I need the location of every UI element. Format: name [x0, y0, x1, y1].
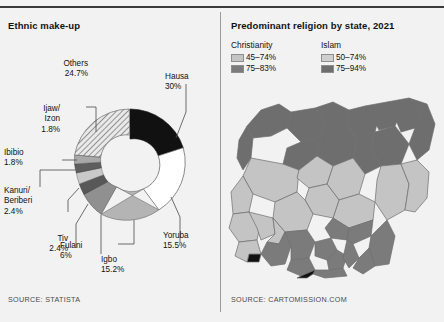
donut-chart: Others 24.7% Ijaw/ Izon 1.8% Ibibio 1.8%…: [0, 12, 220, 312]
donut-segments: [74, 109, 185, 220]
label-ijaw-izon: Ijaw/ Izon 1.8%: [2, 104, 60, 135]
legend-islam: Islam 50–74% 75–94%: [321, 40, 366, 75]
label-igbo: Igbo 15.2%: [101, 255, 151, 276]
swatch-icon-christianity-high: [231, 65, 244, 73]
label-ibibio: Ibibio 1.8%: [4, 148, 64, 169]
source-right: SOURCE: CARTOMISSION.COM: [231, 295, 347, 304]
label-yoruba: Yoruba 15.5%: [163, 231, 219, 252]
top-rule: [0, 6, 444, 8]
legend-heading-islam: Islam: [321, 40, 366, 50]
legend-item-christianity-low: 45–74%: [231, 53, 276, 62]
legend-label-christianity-high: 75–83%: [246, 64, 276, 73]
label-tiv: Tiv 2.4%: [8, 234, 68, 255]
segment-others: [75, 109, 130, 157]
state-sokoto: [247, 104, 291, 138]
label-hausa: Hausa 30%: [165, 72, 217, 93]
legend-christianity: Christianity 45–74% 75–83%: [231, 40, 276, 75]
legend-label-christianity-low: 45–74%: [246, 53, 276, 62]
label-kanuri-beriberi: Kanuri/ Beriberi 2.4%: [4, 186, 66, 217]
swatch-icon-christianity-low: [231, 54, 244, 62]
legend-label-islam-low: 50–74%: [336, 53, 366, 62]
religion-map-panel: Predominant religion by state, 2021 Chri…: [221, 12, 444, 314]
source-left: SOURCE: STATISTA: [8, 295, 80, 304]
legend-heading-christianity: Christianity: [231, 40, 276, 50]
state-lagos: [247, 254, 261, 262]
infographic-root: Ethnic make-up: [0, 0, 444, 322]
label-others: Others 24.7%: [6, 59, 88, 80]
legend-item-christianity-high: 75–83%: [231, 64, 276, 73]
legend-label-islam-high: 75–94%: [336, 64, 366, 73]
swatch-icon-islam-low: [321, 54, 334, 62]
swatch-icon-islam-high: [321, 65, 334, 73]
segment-yoruba: [143, 148, 185, 210]
nigeria-map: [229, 88, 439, 278]
ethnic-makeup-panel: Ethnic make-up: [0, 12, 220, 314]
legend-item-islam-low: 50–74%: [321, 53, 366, 62]
state-taraba: [375, 164, 409, 220]
map-title: Predominant religion by state, 2021: [231, 20, 394, 31]
legend-item-islam-high: 75–94%: [321, 64, 366, 73]
segment-hausa: [130, 109, 183, 156]
